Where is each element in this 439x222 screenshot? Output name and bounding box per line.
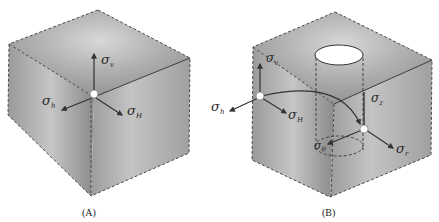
panel-a: σv σh σH (A) <box>8 10 190 219</box>
caption-b: (B) <box>322 207 335 219</box>
wellbore-opening <box>315 45 363 65</box>
caption-a: (A) <box>82 207 96 219</box>
stress-point-marker <box>90 90 98 98</box>
label-sigma-h: σh <box>211 99 224 116</box>
stress-diagram: σv σh σH (A) σv σh <box>0 0 439 222</box>
borehole-wall-point-marker <box>360 125 368 133</box>
far-field-point-marker <box>256 92 264 100</box>
panel-b: σv σh σH σz σθ σr (B) <box>211 12 432 219</box>
